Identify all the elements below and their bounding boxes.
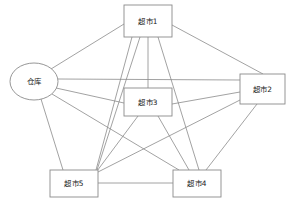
network-diagram: 仓库超市1超市2超市3超市4超市5 xyxy=(0,0,293,205)
node-market5[interactable]: 超市5 xyxy=(50,170,98,197)
node-label-market4: 超市4 xyxy=(187,179,206,188)
node-label-market2: 超市2 xyxy=(253,85,272,94)
edge-warehouse-to-market2 xyxy=(58,79,240,80)
node-label-market1: 超市1 xyxy=(138,17,157,26)
node-market1[interactable]: 超市1 xyxy=(124,5,172,37)
edge-warehouse-to-market3 xyxy=(56,88,124,103)
edge-market3-to-market4 xyxy=(158,116,189,170)
edge-warehouse-to-market1 xyxy=(51,24,124,69)
edge-warehouse-to-market5 xyxy=(41,99,63,170)
node-layer: 仓库超市1超市2超市3超市4超市5 xyxy=(10,5,285,197)
edge-market2-to-market3 xyxy=(172,92,240,104)
diagram-canvas: 仓库超市1超市2超市3超市4超市5 xyxy=(0,0,293,205)
node-label-market3: 超市3 xyxy=(138,98,157,107)
node-label-market5: 超市5 xyxy=(64,179,83,188)
node-market4[interactable]: 超市4 xyxy=(173,170,221,197)
node-market3[interactable]: 超市3 xyxy=(124,88,172,116)
node-market2[interactable]: 超市2 xyxy=(240,74,285,104)
node-warehouse[interactable]: 仓库 xyxy=(10,63,58,100)
node-label-warehouse: 仓库 xyxy=(27,77,42,86)
edge-market2-to-market4 xyxy=(206,104,257,170)
edge-market1-to-market2 xyxy=(172,25,263,74)
